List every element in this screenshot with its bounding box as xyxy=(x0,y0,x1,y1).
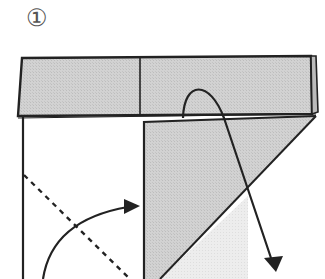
arrowhead-right-icon xyxy=(124,199,140,214)
valley-fold-dashed-line xyxy=(24,175,130,279)
arrowhead-down-icon xyxy=(264,256,283,272)
fold-up-curved-arrow xyxy=(43,199,140,279)
top-band-folded-strip xyxy=(18,56,318,118)
origami-diagram xyxy=(0,0,325,279)
